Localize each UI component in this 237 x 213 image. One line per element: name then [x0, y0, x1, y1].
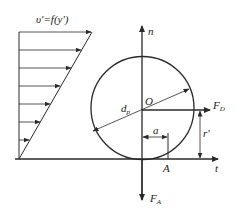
- tangent-axis-label: t: [215, 163, 218, 174]
- diameter-subscript: p: [127, 108, 131, 116]
- contact-force-symbol: F: [150, 192, 157, 204]
- velocity-profile-label: υ'=f(y'): [36, 14, 68, 25]
- diameter-label: dp: [121, 103, 130, 116]
- contact-point-label: A: [163, 163, 170, 174]
- diagram-canvas: [0, 0, 237, 213]
- drag-force-symbol: F: [213, 99, 220, 111]
- drag-force-label: FD: [213, 100, 225, 113]
- contact-force-subscript: A: [157, 198, 161, 206]
- height-label: r': [203, 128, 210, 139]
- contact-force-label: FA: [150, 193, 161, 206]
- offset-label: a: [153, 125, 159, 136]
- drag-force-subscript: D: [220, 105, 225, 113]
- particle-shear-flow-diagram: υ'=f(y') n O dp FD a r' A t FA: [0, 0, 237, 213]
- velocity-profile: [19, 32, 92, 159]
- normal-axis-label: n: [148, 26, 154, 37]
- center-label: O: [145, 96, 153, 107]
